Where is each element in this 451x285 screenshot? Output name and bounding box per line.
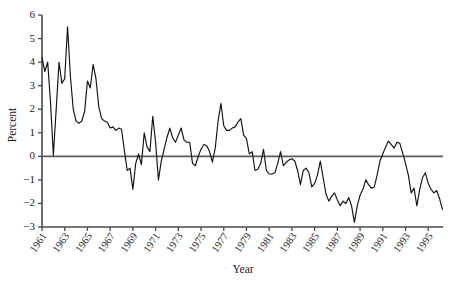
x-axis-tick-label: 1995: [414, 231, 435, 255]
x-axis-tick-label: 1993: [391, 231, 412, 255]
x-axis: 1961196319651967196919711973197519771979…: [28, 227, 443, 254]
x-axis-tick-label: 1987: [323, 231, 344, 255]
y-axis-tick-label: 4: [30, 55, 36, 67]
y-axis: 6543210−1−2−3: [23, 8, 42, 232]
x-axis-tick-label: 1985: [300, 231, 321, 255]
y-axis-tick-label: 2: [30, 102, 36, 114]
x-axis-tick-label: 1973: [164, 231, 185, 255]
x-axis-tick-label: 1991: [368, 231, 389, 255]
percent-vs-year-line-chart: 6543210−1−2−3 19611963196519671969197119…: [0, 0, 451, 285]
y-axis-tick-labels: 6543210−1−2−3: [23, 8, 35, 232]
y-axis-tick-label: 3: [30, 79, 36, 91]
y-axis-tick-label: −1: [23, 173, 35, 185]
y-axis-tick-label: 1: [30, 126, 36, 138]
x-axis-tick-label: 1961: [28, 231, 49, 255]
x-axis-tick-label: 1981: [255, 231, 276, 255]
y-axis-tick-label: −2: [23, 196, 35, 208]
chart-figure: 6543210−1−2−3 19611963196519671969197119…: [0, 0, 451, 285]
x-axis-tick-label: 1975: [187, 231, 208, 255]
x-axis-tick-label: 1989: [346, 231, 367, 255]
data-series-percent: [42, 27, 442, 223]
x-axis-tick-label: 1977: [209, 231, 230, 255]
x-axis-tick-label: 1967: [96, 231, 117, 255]
x-axis-title: Year: [232, 263, 253, 275]
x-axis-tick-label: 1963: [50, 231, 71, 255]
y-axis-tick-label: 6: [30, 8, 36, 20]
x-axis-tick-label: 1969: [118, 231, 139, 255]
y-axis-tick-label: −3: [23, 220, 35, 232]
x-axis-tick-label: 1979: [232, 231, 253, 255]
x-axis-tick-label: 1971: [141, 231, 162, 255]
x-axis-tick-label: 1965: [73, 231, 94, 255]
y-axis-tick-label: 0: [30, 149, 36, 161]
x-axis-tick-labels: 1961196319651967196919711973197519771979…: [28, 231, 435, 255]
x-axis-tick-label: 1983: [278, 231, 299, 255]
y-axis-tick-label: 5: [30, 32, 36, 44]
y-axis-title: Percent: [6, 107, 18, 142]
